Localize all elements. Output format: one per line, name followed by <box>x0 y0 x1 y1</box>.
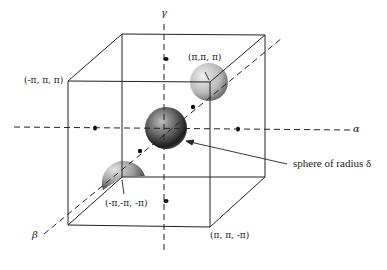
alpha-label: α <box>353 124 360 134</box>
corner-label-bottom-left: (-π,-π, -π) <box>105 199 147 208</box>
beta-axis <box>44 38 282 234</box>
sphere-bottom-left <box>102 161 145 190</box>
sphere-annotation: sphere of radius δ <box>293 158 371 169</box>
cube-diagram <box>0 0 387 270</box>
corner-label-top-right: (π,π, π) <box>188 53 221 62</box>
corner-label-bottom-right: (π, π, -π) <box>210 231 249 240</box>
corner-label-top-left: (-π, π, π) <box>24 76 63 85</box>
beta-label: β <box>32 230 38 240</box>
gamma-label: γ <box>161 8 167 18</box>
